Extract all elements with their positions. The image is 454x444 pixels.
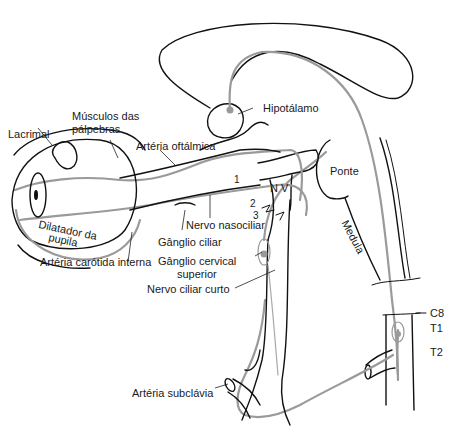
label-ganglio-cervical-line1: Gânglio cervical: [158, 255, 236, 267]
label-musculos-line2: pálpebras: [72, 123, 120, 135]
label-c8: C8: [430, 307, 444, 319]
label-nervo-nasociliar: Nervo nasociliar: [186, 219, 265, 231]
carotid-right-wall: [282, 200, 290, 425]
label-ganglio-cervical-line2: superior: [177, 268, 217, 280]
label-ganglio-ciliar: Gânglio ciliar: [158, 236, 222, 248]
label-arteria-subclavia: Artéria subclávia: [132, 387, 213, 399]
ophthalmic-artery: [15, 150, 302, 200]
label-n1: 1: [234, 174, 240, 186]
label-arteria-oftalmica: Artéria oftálmica: [136, 140, 215, 152]
label-nervo-ciliar-curto: Nervo ciliar curto: [147, 283, 230, 295]
label-lacrimal: Lacrimal: [8, 128, 50, 140]
ciliary-ganglion: [175, 203, 195, 205]
hypothalamus-outline: [208, 104, 244, 138]
spinal-cord-outline-right: [380, 138, 405, 278]
leader-arteria-oftalmica: [160, 150, 175, 165]
lacrimal-gland: [53, 142, 77, 169]
label-ponte: Ponte: [330, 165, 359, 177]
label-arteria-carotida: Artéria carótida interna: [40, 256, 151, 268]
leader-musculos: [110, 140, 118, 158]
label-t1: T1: [430, 322, 443, 334]
hypothalamus-dot: [227, 107, 234, 114]
leader-ganglio-ciliar: [182, 210, 185, 230]
label-musculos-line1: Músculos das: [72, 110, 139, 122]
sympathetic-pupil-pathway-diagram: Lacrimal Músculos das pálpebras Artéria …: [0, 0, 454, 444]
lower-cord-right: [412, 315, 414, 410]
preganglionic-fiber: [238, 300, 394, 417]
label-t2: T2: [430, 346, 443, 358]
label-nv: N V: [270, 182, 288, 194]
label-hipotalamo: Hipotálamo: [263, 102, 319, 114]
pupil: [34, 190, 38, 200]
label-n2: 2: [250, 198, 256, 210]
brain-arch-outline: [159, 23, 412, 108]
carotid-left-wall: [242, 240, 268, 420]
